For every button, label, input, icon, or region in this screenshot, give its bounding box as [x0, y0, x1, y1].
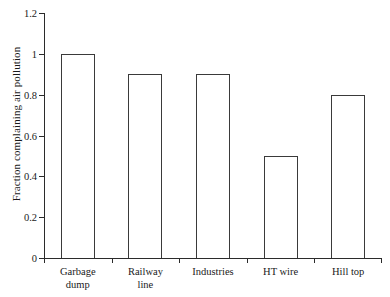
- x-tick-4: [314, 258, 315, 263]
- bar-0: [61, 54, 95, 258]
- x-tick-0: [44, 258, 45, 263]
- x-tick-2: [179, 258, 180, 263]
- bar-2: [196, 74, 230, 258]
- bar-3: [264, 156, 298, 258]
- y-axis-line: [44, 13, 45, 258]
- y-tick-5: [39, 54, 44, 55]
- bar-4: [331, 95, 365, 258]
- x-category-label-line: dump: [44, 278, 112, 291]
- x-category-label-line: line: [112, 278, 180, 291]
- x-category-0: Garbagedump: [44, 265, 112, 291]
- x-category-1: Railwayline: [112, 265, 180, 291]
- x-tick-1: [112, 258, 113, 263]
- y-tick-label-2: 0.4: [24, 171, 37, 182]
- y-tick-3: [39, 136, 44, 137]
- y-tick-label-1: 0.2: [24, 212, 37, 223]
- y-tick-label-0: 0: [32, 253, 37, 264]
- plot-area: 00.20.40.60.811.2 GarbagedumpRailwayline…: [44, 13, 382, 258]
- x-category-label-line: Hill top: [314, 265, 382, 278]
- y-tick-label-3: 0.6: [24, 130, 37, 141]
- x-category-label-line: HT wire: [247, 265, 315, 278]
- y-tick-label-4: 0.8: [24, 89, 37, 100]
- x-category-label-line: Industries: [179, 265, 247, 278]
- y-tick-6: [39, 13, 44, 14]
- y-axis-title: Fraction complaining air pollution: [10, 24, 22, 224]
- x-category-label-line: Garbage: [44, 265, 112, 278]
- bar-1: [128, 74, 162, 258]
- x-category-label-line: Railway: [112, 265, 180, 278]
- x-tick-5: [381, 258, 382, 263]
- x-category-2: Industries: [179, 265, 247, 278]
- bar-chart-figure: Fraction complaining air pollution 00.20…: [0, 0, 390, 297]
- y-tick-label-5: 1: [32, 48, 37, 59]
- x-category-3: HT wire: [247, 265, 315, 278]
- y-tick-label-6: 1.2: [24, 8, 37, 19]
- x-axis-line: [44, 258, 382, 259]
- y-tick-2: [39, 176, 44, 177]
- y-tick-1: [39, 217, 44, 218]
- x-category-4: Hill top: [314, 265, 382, 278]
- y-tick-4: [39, 95, 44, 96]
- x-tick-3: [247, 258, 248, 263]
